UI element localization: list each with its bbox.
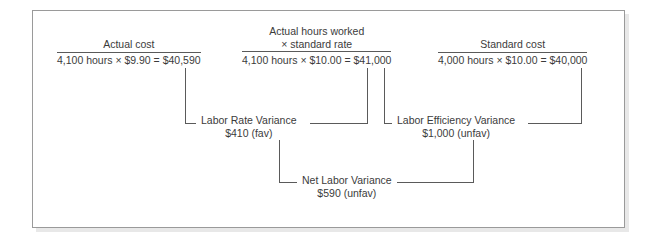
connector-actual-hours-down-left xyxy=(367,68,368,124)
connector-actual-cost-down xyxy=(185,68,186,124)
connector-efficiency-variance-down xyxy=(473,140,474,183)
labor-rate-variance-name: Labor Rate Variance xyxy=(201,114,297,127)
connector-rate-variance-down xyxy=(279,140,280,183)
connector-standard-cost-down xyxy=(581,68,582,124)
column-actual-hours-formula: 4,100 hours × $10.00 = $41,000 xyxy=(242,52,391,66)
column-actual-hours-heading-line2: × standard rate xyxy=(281,38,352,50)
variance-diagram: Actual cost 4,100 hours × $9.90 = $40,59… xyxy=(0,0,657,246)
labor-efficiency-variance-amount: $1,000 (unfav) xyxy=(397,127,515,140)
column-actual-cost-formula: 4,100 hours × $9.90 = $40,590 xyxy=(57,53,201,67)
column-standard-cost-heading: Standard cost xyxy=(438,38,587,53)
net-labor-variance-amount: $590 (unfav) xyxy=(302,187,392,200)
net-labor-variance-name: Net Labor Variance xyxy=(302,174,392,187)
connector-net-variance-right xyxy=(397,182,474,183)
column-actual-cost: Actual cost 4,100 hours × $9.90 = $40,59… xyxy=(57,38,201,67)
labor-efficiency-variance-label: Labor Efficiency Variance $1,000 (unfav) xyxy=(392,114,520,140)
net-labor-variance-label: Net Labor Variance $590 (unfav) xyxy=(297,174,397,200)
connector-actual-hours-down-right xyxy=(384,68,385,124)
column-standard-cost-formula: 4,000 hours × $10.00 = $40,000 xyxy=(438,53,587,67)
column-actual-hours-heading-line1: Actual hours worked xyxy=(269,25,364,37)
connector-rate-variance-right xyxy=(310,123,368,124)
labor-efficiency-variance-name: Labor Efficiency Variance xyxy=(397,114,515,127)
labor-rate-variance-label: Labor Rate Variance $410 (fav) xyxy=(196,114,302,140)
column-standard-cost: Standard cost 4,000 hours × $10.00 = $40… xyxy=(438,38,587,67)
column-actual-hours-heading: Actual hours worked × standard rate xyxy=(242,25,391,52)
column-actual-hours-standard-rate: Actual hours worked × standard rate 4,10… xyxy=(242,25,391,66)
labor-rate-variance-amount: $410 (fav) xyxy=(201,127,297,140)
column-actual-cost-heading: Actual cost xyxy=(57,38,201,53)
connector-efficiency-variance-right xyxy=(528,123,582,124)
